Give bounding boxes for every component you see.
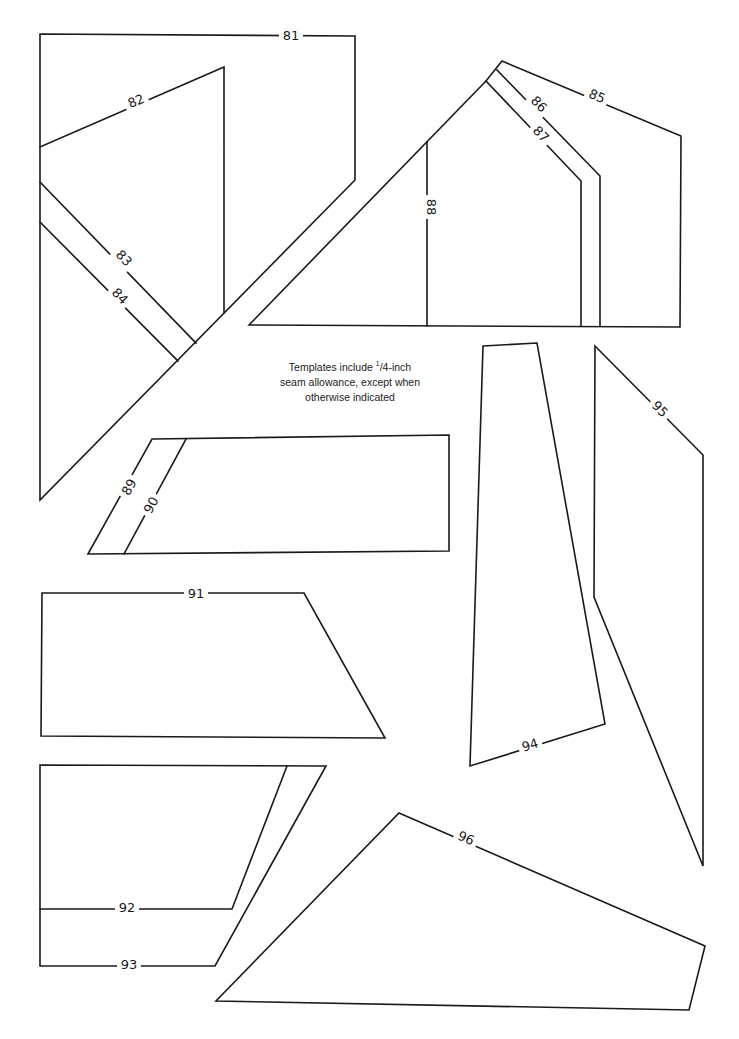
svg-text:91: 91 (188, 586, 205, 601)
label-94: 94 (516, 733, 544, 757)
template-94-outline (470, 343, 605, 766)
template-91-outline (41, 593, 385, 738)
svg-text:81: 81 (283, 28, 300, 43)
template-85-outline (249, 61, 681, 327)
template-81-outline (40, 34, 355, 500)
label-90: 90 (137, 490, 164, 520)
label-95: 95 (645, 394, 675, 424)
template-93-outline (40, 765, 326, 966)
label-93: 93 (117, 955, 141, 973)
svg-text:93: 93 (121, 957, 138, 972)
template-group-85-88 (249, 61, 681, 327)
svg-text:92: 92 (119, 900, 136, 915)
template-group-92-93 (40, 765, 326, 966)
label-88: 88 (422, 195, 440, 219)
svg-text:88: 88 (424, 199, 439, 216)
template-95-outline (594, 346, 703, 866)
label-87: 87 (526, 119, 556, 149)
seam-allowance-note: Templates include 1/4-inch seam allowanc… (250, 356, 450, 405)
template-89-outline (88, 435, 449, 554)
note-line-3: otherwise indicated (250, 390, 450, 405)
label-84: 84 (105, 281, 135, 311)
template-group-89-90 (88, 435, 449, 554)
template-sheet: 81 82 83 84 85 86 87 88 89 90 (0, 0, 739, 1039)
label-91: 91 (184, 584, 208, 602)
note-line-2: seam allowance, except when (250, 375, 450, 390)
label-86: 86 (524, 89, 554, 119)
template-87-line (486, 81, 581, 326)
template-92-line (40, 766, 287, 909)
template-group-81-84 (40, 34, 355, 500)
label-83: 83 (109, 243, 139, 273)
note-line-1: Templates include 1/4-inch (250, 356, 450, 375)
label-92: 92 (115, 898, 139, 916)
label-81: 81 (279, 26, 303, 44)
